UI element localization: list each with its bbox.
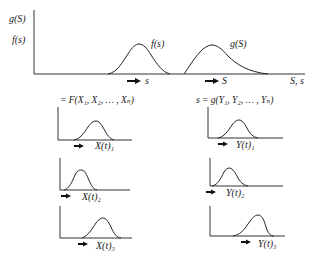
subplot-label: Y(t)₁ [236,139,254,151]
right-subplot-2: Y(t)₂ [206,158,283,199]
arrow-icon [218,142,228,147]
right-equation: s = g(Y₁, Y₂, … , Yₙ) [196,95,273,106]
f-curve-label: f(s) [151,38,165,50]
arrow-icon [241,240,251,245]
right-subplot-3: Y(t)₃ [210,206,285,250]
arrow-s-label: s [145,75,149,86]
right-subplot-1: Y(t)₁ [208,107,283,151]
arrow-S-icon [205,78,219,84]
main-plot: g(S) f(s) f(s) g(S) s S S, s [9,10,305,86]
subplot-label: X(t)₃ [95,240,116,252]
g-curve-label: g(S) [230,38,247,50]
arrow-icon [78,242,88,247]
arrow-S-label: S [222,75,227,86]
y-axis-label-f: f(s) [12,34,26,46]
diagram-canvas: g(S) f(s) f(s) g(S) s S S, s = F(X₁, X₂,… [0,0,326,261]
g-curve [184,45,268,74]
arrow-s-icon [127,78,141,84]
left-equation: = F(X₁, X₂, … , Xₙ) [60,95,134,106]
x-axis-label: S, s [290,75,304,86]
arrow-icon [74,144,84,149]
left-subplot-3: X(t)₃ [60,206,132,252]
subplot-label: X(t)₁ [94,140,114,152]
arrow-icon [206,190,216,195]
left-subplot-2: X(t)₂ [60,158,130,203]
y-axis-label-g: g(S) [9,13,26,25]
arrow-icon [61,194,71,199]
subplot-label: Y(t)₃ [258,238,277,250]
left-subplot-1: X(t)₁ [58,107,132,152]
subplot-label: Y(t)₂ [226,187,245,199]
main-axes [34,10,305,74]
subplot-label: X(t)₂ [81,191,102,203]
